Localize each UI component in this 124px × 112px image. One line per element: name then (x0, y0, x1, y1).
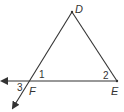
ray-df (14, 12, 72, 106)
angle-1-label: 1 (39, 69, 45, 80)
vertex-d (71, 11, 73, 13)
label-f: F (29, 85, 37, 97)
angle-2-label: 2 (103, 70, 109, 81)
side-de (72, 12, 117, 81)
vertex-e (116, 80, 118, 82)
label-d: D (75, 3, 83, 15)
label-e: E (111, 85, 119, 97)
triangle-diagram: D E F 1 2 3 (0, 0, 124, 112)
angle-3-label: 3 (17, 82, 23, 93)
